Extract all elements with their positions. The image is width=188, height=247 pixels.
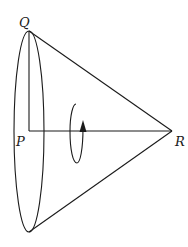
label-p: P (15, 134, 25, 149)
rotation-loop (70, 104, 83, 163)
rotation-arrowhead (80, 120, 87, 132)
cone-diagram: Q P R (0, 0, 188, 247)
label-q: Q (19, 15, 30, 30)
label-r: R (174, 134, 185, 149)
slant-edge-bottom-r (29, 131, 172, 232)
rotation-arrow-icon (70, 104, 87, 163)
slant-edge-qr (29, 31, 172, 131)
